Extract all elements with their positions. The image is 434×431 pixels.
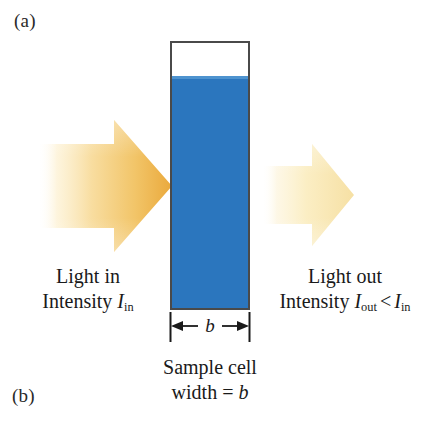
cuvette-headspace [172,43,248,76]
sample-cell-title: Sample cell [125,355,295,380]
intensity-subscript-in-compare: in [401,300,411,314]
less-than-operator: < [377,290,394,312]
width-symbol: b [238,381,248,403]
light-in-intensity: Intensity Iin [8,289,168,320]
liquid-meniscus [172,76,248,79]
sample-cell-cuvette [170,41,250,310]
intensity-word-out: Intensity [279,290,349,312]
intensity-subscript-out: out [361,300,377,314]
intensity-symbol-in: I [117,290,124,312]
cell-width-symbol: b [164,316,256,335]
transmitted-light-caption: Light out Intensity Iout<Iin [256,264,434,320]
light-out-intensity: Intensity Iout<Iin [256,289,434,320]
intensity-symbol-in-compare: I [394,290,401,312]
light-out-title: Light out [256,264,434,289]
intensity-word-in: Intensity [42,290,112,312]
transmitted-light-arrow [262,142,354,248]
sample-cell-width-line: width = b [125,380,295,405]
intensity-subscript-in: in [124,300,134,314]
incident-light-arrow [38,118,172,254]
panel-label-b: (b) [12,386,35,405]
sample-cell-caption: Sample cell width = b [125,355,295,405]
light-in-title: Light in [8,264,168,289]
cuvette-sample-solution [172,76,248,308]
incident-light-caption: Light in Intensity Iin [8,264,168,320]
panel-label-a: (a) [14,11,36,30]
beer-lambert-light-absorption-figure: (a) (b) [0,0,434,431]
width-equals-text: width = [172,381,234,403]
cell-width-dimension: b [164,312,256,346]
